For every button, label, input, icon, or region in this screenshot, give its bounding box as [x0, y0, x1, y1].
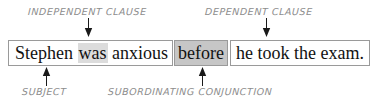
sentence-row: Stephen was anxious before he took the e… — [8, 40, 370, 66]
arrow-down-icon-dependent-clause — [262, 18, 271, 38]
word-subordinating-conjunction: before — [178, 44, 224, 62]
word-predicate-adjective: anxious — [112, 44, 168, 62]
word-subject: Stephen — [15, 44, 73, 62]
word-verb-highlighted: was — [78, 43, 108, 63]
dependent-clause-box: he took the exam. — [230, 40, 370, 66]
arrow-up-icon-subject — [42, 67, 51, 86]
label-independent-clause: INDEPENDENT CLAUSE — [28, 6, 147, 17]
label-subordinating-conjunction: SUBORDINATING CONJUNCTION — [108, 86, 273, 97]
subordinating-conjunction-box: before — [174, 40, 228, 66]
label-dependent-clause: DEPENDENT CLAUSE — [205, 6, 313, 17]
label-subject: SUBJECT — [22, 86, 67, 97]
arrow-down-icon-independent-clause — [84, 18, 93, 38]
dependent-clause-text: he took the exam. — [236, 44, 364, 62]
arrow-up-icon-subordinating-conjunction — [198, 67, 207, 86]
independent-clause-box: Stephen was anxious — [8, 40, 173, 66]
